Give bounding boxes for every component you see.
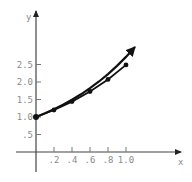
data-point (88, 89, 93, 94)
series-group (33, 47, 135, 120)
chart: .2.4.6.81.0.51.01.52.02.5 x y (0, 0, 192, 182)
y-tick-label: 1.5 (17, 95, 33, 105)
x-axis-label: x (178, 157, 184, 167)
y-tick-label: 1.0 (17, 112, 33, 122)
x-tick-label: .8 (103, 155, 114, 165)
data-point (106, 77, 111, 82)
x-tick-label: .2 (49, 155, 60, 165)
y-tick-label: 2.0 (17, 77, 33, 87)
data-point (70, 99, 75, 104)
data-point (52, 108, 57, 113)
x-tick-label: .6 (85, 155, 96, 165)
x-tick-label: .4 (67, 155, 78, 165)
y-axis-label: y (26, 12, 32, 22)
data-point (124, 63, 129, 68)
x-tick-label: 1.0 (118, 155, 134, 165)
y-tick-label: 2.5 (17, 60, 33, 70)
approximation-line (36, 65, 126, 117)
y-tick-label: .5 (22, 130, 33, 140)
data-point (33, 114, 39, 120)
exact-curve (36, 47, 135, 117)
chart-canvas: .2.4.6.81.0.51.01.52.02.5 x y (0, 0, 192, 182)
ticks: .2.4.6.81.0.51.01.52.02.5 (17, 60, 134, 166)
axes (16, 11, 181, 172)
